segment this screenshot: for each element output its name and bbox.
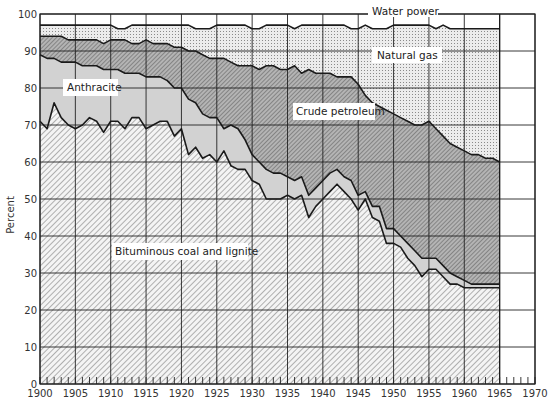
y-tick-label: 100 [18, 9, 37, 20]
svg-text:Bituminous coal and lignite: Bituminous coal and lignite [115, 245, 258, 257]
x-tick-label: 1945 [345, 388, 370, 399]
y-tick-label: 90 [24, 46, 37, 57]
y-tick-label: 80 [24, 83, 37, 94]
svg-text:Crude petroleum: Crude petroleum [296, 105, 385, 117]
y-tick-label: 30 [24, 268, 37, 279]
y-tick-label: 60 [24, 157, 37, 168]
y-axis-ticks: 0102030405060708090100 [18, 9, 37, 390]
x-tick-label: 1905 [63, 388, 88, 399]
label-bituminous: Bituminous coal and lignite [112, 243, 258, 260]
svg-text:Natural gas: Natural gas [377, 49, 438, 61]
svg-text:Water power: Water power [372, 5, 440, 17]
x-tick-label: 1950 [381, 388, 406, 399]
x-tick-label: 1970 [522, 388, 547, 399]
y-tick-label: 70 [24, 120, 37, 131]
label-anthracite: Anthracite [63, 79, 122, 96]
x-tick-label: 1930 [239, 388, 264, 399]
label-natural-gas: Natural gas [372, 47, 442, 63]
x-tick-label: 1935 [275, 388, 300, 399]
label-water-power: Water power [368, 5, 440, 17]
y-tick-label: 40 [24, 231, 37, 242]
svg-text:Anthracite: Anthracite [67, 81, 122, 93]
x-tick-label: 1900 [27, 388, 52, 399]
label-crude-petroleum: Crude petroleum [293, 103, 385, 120]
x-tick-label: 1955 [416, 388, 441, 399]
x-tick-label: 1920 [169, 388, 194, 399]
x-tick-label: 1965 [487, 388, 512, 399]
energy-share-area-chart: 0102030405060708090100 19001905191019151… [0, 0, 550, 403]
y-tick-label: 10 [24, 342, 37, 353]
x-tick-label: 1960 [452, 388, 477, 399]
y-tick-label: 50 [24, 194, 37, 205]
x-tick-label: 1925 [204, 388, 229, 399]
x-tick-label: 1915 [133, 388, 158, 399]
y-axis-label: Percent [5, 196, 16, 234]
y-tick-label: 20 [24, 305, 37, 316]
x-tick-label: 1940 [310, 388, 335, 399]
x-tick-label: 1910 [98, 388, 123, 399]
